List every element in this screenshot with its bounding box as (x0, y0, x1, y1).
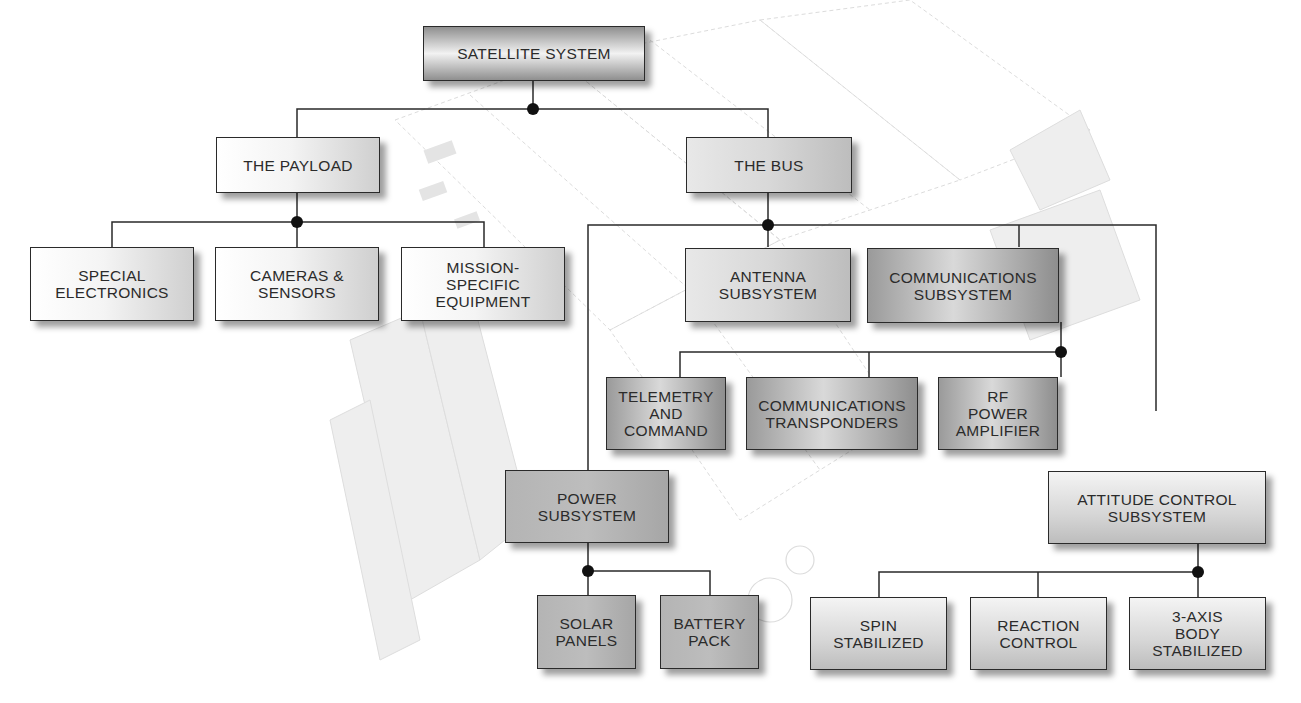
node-power-subsystem: POWER SUBSYSTEM (505, 470, 669, 543)
junction-dot (291, 216, 303, 228)
junction-dot (762, 219, 774, 231)
junction-dot (527, 103, 539, 115)
node-communications-subsystem: COMMUNICATIONS SUBSYSTEM (867, 248, 1059, 323)
node-battery-pack: BATTERY PACK (660, 595, 759, 669)
node-antenna-subsystem: ANTENNA SUBSYSTEM (685, 248, 851, 322)
node-mission-specific-equipment: MISSION- SPECIFIC EQUIPMENT (401, 247, 565, 321)
junction-dot (582, 565, 594, 577)
node-cameras-sensors: CAMERAS & SENSORS (215, 247, 379, 321)
node-attitude-control-subsystem: ATTITUDE CONTROL SUBSYSTEM (1048, 471, 1266, 544)
node-rf-power-amplifier: RF POWER AMPLIFIER (938, 377, 1058, 450)
node-the-payload: THE PAYLOAD (216, 137, 380, 193)
junction-dot (1055, 346, 1067, 358)
node-satellite-system: SATELLITE SYSTEM (423, 26, 645, 81)
node-telemetry-and-command: TELEMETRY AND COMMAND (606, 377, 726, 450)
node-3-axis-body-stabilized: 3-AXIS BODY STABILIZED (1129, 597, 1266, 670)
node-special-electronics: SPECIAL ELECTRONICS (30, 247, 194, 321)
node-the-bus: THE BUS (686, 137, 852, 193)
satellite-system-diagram: SATELLITE SYSTEM THE PAYLOAD THE BUS SPE… (0, 0, 1301, 703)
node-reaction-control: REACTION CONTROL (970, 597, 1107, 670)
node-spin-stabilized: SPIN STABILIZED (810, 597, 947, 670)
junction-dot (1192, 566, 1204, 578)
node-communications-transponders: COMMUNICATIONS TRANSPONDERS (746, 377, 918, 450)
node-solar-panels: SOLAR PANELS (537, 595, 636, 669)
